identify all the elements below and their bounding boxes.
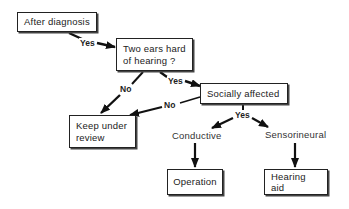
node-hearing-aid: Hearing aid (264, 169, 328, 195)
node-hearing-aid-label: Hearing aid (271, 171, 321, 194)
node-conductive: Conductive (172, 130, 222, 141)
node-after-diagnosis-label: After diagnosis (24, 16, 90, 28)
node-two-ears-line1: Two ears hard (123, 43, 186, 55)
arrow-to-sensorineural (252, 118, 268, 127)
node-sensorineural: Sensorineural (265, 129, 326, 140)
node-two-ears-hard-of-hearing: Two ears hard of hearing ? (116, 38, 193, 71)
edge-label-yes-after: Yes (79, 38, 96, 48)
node-two-ears-line2: of hearing ? (123, 55, 176, 67)
node-socially-affected-label: Socially affected (207, 88, 279, 100)
node-operation-label: Operation (173, 176, 217, 188)
node-keep-review-line2: review (76, 132, 105, 144)
arrow-to-conductive (212, 118, 233, 128)
edge-label-no-social: No (163, 100, 176, 110)
edge-label-yes-two-ears: Yes (167, 76, 184, 86)
node-after-diagnosis: After diagnosis (17, 12, 97, 32)
node-operation: Operation (167, 169, 223, 195)
node-keep-under-review: Keep under review (69, 115, 136, 148)
edge-label-no-two-ears: No (119, 84, 132, 94)
node-keep-review-line1: Keep under (76, 120, 127, 132)
node-socially-affected: Socially affected (200, 83, 288, 104)
edge-label-yes-social: Yes (234, 110, 251, 120)
